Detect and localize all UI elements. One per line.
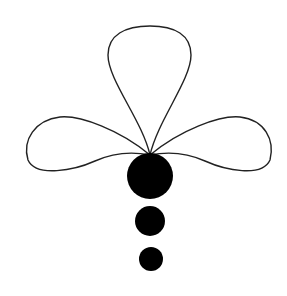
small-circle bbox=[139, 247, 163, 271]
medium-circle bbox=[135, 206, 165, 236]
petals bbox=[27, 26, 272, 171]
flower-figure bbox=[0, 0, 287, 296]
large-circle bbox=[127, 153, 173, 199]
body-circles bbox=[127, 153, 173, 271]
